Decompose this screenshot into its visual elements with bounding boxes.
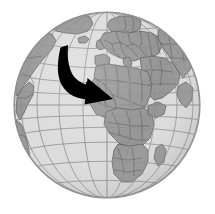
- globe-illustration: [0, 0, 215, 214]
- globe-shading: [14, 12, 200, 198]
- globe-figure: Grayscale orthographic globe centred on …: [0, 0, 215, 214]
